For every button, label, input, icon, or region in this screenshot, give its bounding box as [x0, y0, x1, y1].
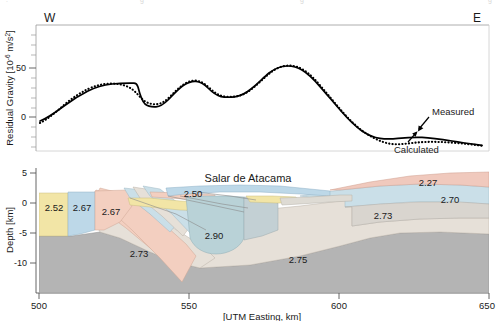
direction-east-label: E — [473, 11, 481, 25]
figure-root: 50 0 Residual Gravity [10-6 m/s2] W E Me… — [0, 0, 496, 321]
body-2-90-teal — [186, 196, 244, 254]
easting-tick-650: 650 — [479, 300, 495, 311]
depth-tick-minus5: -5 — [19, 228, 27, 238]
density-label-2-27: 2.27 — [419, 177, 438, 188]
depth-axis-label-group: Depth [km] — [4, 207, 15, 253]
ylabel-main: Residual Gravity [10 — [4, 60, 15, 146]
density-label-2-67-a: 2.67 — [73, 202, 92, 213]
basin-name-label: Salar de Atacama — [205, 172, 293, 184]
direction-west-label: W — [44, 11, 56, 25]
depth-tick-0: 0 — [22, 198, 27, 208]
easting-axis-label: [UTM Easting, km] — [223, 311, 301, 321]
top-ytick-50: 50 — [16, 63, 26, 73]
depth-axis-label: Depth [km] — [4, 207, 15, 253]
top-panel-minor-ticks — [31, 35, 36, 147]
calculated-label: Calculated — [394, 144, 439, 155]
top-panel-ylabel: Residual Gravity [10-6 m/s2] — [4, 30, 15, 146]
density-label-2-90: 2.90 — [205, 230, 224, 241]
density-label-2-73-a: 2.73 — [130, 248, 149, 259]
body-2-67-lightblue — [68, 192, 95, 236]
density-label-2-52: 2.52 — [45, 202, 64, 213]
density-label-2-73-b: 2.73 — [374, 210, 393, 221]
density-label-2-67-b: 2.67 — [102, 206, 121, 217]
bottom-panel-xticks — [39, 293, 489, 299]
top-panel-ylabel-group: Residual Gravity [10-6 m/s2] — [4, 30, 15, 146]
easting-tick-550: 550 — [181, 300, 197, 311]
density-label-2-75: 2.75 — [289, 254, 308, 265]
measured-label: Measured — [432, 106, 474, 117]
top-panel-major-ticks — [29, 68, 36, 117]
ylabel-unit: m/s — [4, 36, 15, 54]
density-label-2-50: 2.50 — [184, 188, 203, 199]
easting-tick-500: 500 — [31, 300, 47, 311]
density-model-bodies — [39, 172, 489, 293]
easting-tick-600: 600 — [331, 300, 347, 311]
top-panel: 50 0 Residual Gravity [10-6 m/s2] W E Me… — [4, 11, 489, 155]
body-2-52-yellow — [39, 193, 68, 236]
density-label-2-70: 2.70 — [441, 194, 460, 205]
bottom-panel-yticks — [30, 173, 36, 263]
ylabel-close: ] — [4, 30, 15, 33]
depth-tick-minus10: -10 — [14, 258, 27, 268]
bottom-panel: 5 0 -5 -10 Depth [km] 500 550 600 650 [U… — [4, 168, 495, 321]
depth-tick-5: 5 — [22, 168, 27, 178]
top-ytick-0: 0 — [21, 112, 26, 122]
